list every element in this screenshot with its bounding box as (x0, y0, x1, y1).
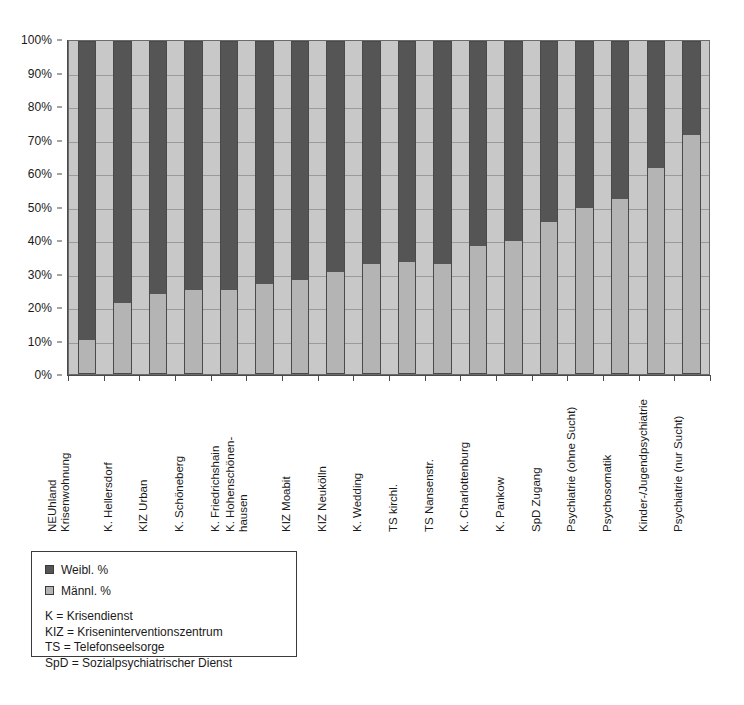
bar-segment-maennlich[interactable] (221, 290, 237, 373)
x-axis-tick-label: Psychiatrie (nur Sucht) (672, 416, 685, 532)
legend-swatch-icon (45, 586, 54, 595)
bar-segment-maennlich[interactable] (648, 168, 664, 373)
x-tick-mark (318, 376, 319, 381)
bar-segment-maennlich[interactable] (114, 303, 130, 373)
bar[interactable] (326, 41, 344, 374)
bar-segment-weiblich[interactable] (363, 42, 379, 264)
bar-segment-weiblich[interactable] (505, 42, 521, 241)
bar-segment-maennlich[interactable] (505, 241, 521, 373)
x-axis-tick-label: K. Pankow (494, 477, 507, 532)
bar-segment-maennlich[interactable] (470, 246, 486, 373)
bar-segment-maennlich[interactable] (256, 284, 272, 373)
bar-segment-weiblich[interactable] (470, 42, 486, 246)
bar-segment-maennlich[interactable] (292, 280, 308, 373)
stacked-bar-chart: 0%10%20%30%40%50%60%70%80%90%100% NEUhla… (0, 0, 744, 705)
legend-entries: Weibl. %Männl. % (45, 560, 296, 600)
bar[interactable] (469, 41, 487, 374)
bar[interactable] (575, 41, 593, 374)
x-label-slot: K. Charlottenburg (460, 382, 496, 532)
x-tick-mark (389, 376, 390, 381)
bar-segment-weiblich[interactable] (256, 42, 272, 284)
legend-item[interactable]: Weibl. % (45, 560, 296, 579)
bar-segment-maennlich[interactable] (683, 135, 699, 373)
bar[interactable] (78, 41, 96, 374)
y-tick-mark (57, 140, 62, 141)
bar-segment-weiblich[interactable] (150, 42, 166, 294)
x-label-slot: TS kirchl. (389, 382, 425, 532)
bar-segment-weiblich[interactable] (221, 42, 237, 290)
bar[interactable] (184, 41, 202, 374)
bar-slot (105, 41, 141, 374)
x-label-slot: KIZ Neukölln (318, 382, 354, 532)
x-label-slot: KIZ Urban (139, 382, 175, 532)
bar-segment-weiblich[interactable] (292, 42, 308, 280)
bar-segment-weiblich[interactable] (576, 42, 592, 208)
bar-segment-maennlich[interactable] (363, 264, 379, 373)
bar[interactable] (611, 41, 629, 374)
y-tick-label: 50% (28, 201, 52, 215)
bar-segment-maennlich[interactable] (434, 264, 450, 373)
bar[interactable] (362, 41, 380, 374)
bar-segment-weiblich[interactable] (114, 42, 130, 303)
bar-segment-maennlich[interactable] (541, 222, 557, 373)
x-axis-tick-label: KIZ Urban (137, 480, 150, 532)
x-axis-tick-label: K. Wedding (351, 473, 364, 532)
x-tick-mark (353, 376, 354, 381)
x-axis-tick-label-line: hausen (237, 437, 250, 532)
y-tick-mark (57, 174, 62, 175)
x-axis-tick-label: NEUhlandKrisenwohnung (46, 453, 72, 532)
bar[interactable] (255, 41, 273, 374)
x-axis-labels: NEUhlandKrisenwohnungK. HellersdorfKIZ U… (68, 382, 710, 532)
y-tick-label: 0% (34, 368, 52, 382)
bar-segment-weiblich[interactable] (79, 42, 95, 340)
bar-segment-weiblich[interactable] (399, 42, 415, 262)
bar-segment-weiblich[interactable] (541, 42, 557, 222)
x-axis-tick-label-line: KIZ Neukölln (316, 466, 329, 532)
bar[interactable] (113, 41, 131, 374)
y-tick-mark (57, 375, 62, 376)
bar-segment-maennlich[interactable] (79, 340, 95, 373)
bar[interactable] (220, 41, 238, 374)
legend-item[interactable]: Männl. % (45, 581, 296, 600)
x-label-slot: Psychiatrie (nur Sucht) (674, 382, 710, 532)
bar-segment-weiblich[interactable] (185, 42, 201, 290)
x-axis-tick-label-line: K. Hohenschönen- (224, 437, 237, 532)
bar[interactable] (433, 41, 451, 374)
bar[interactable] (682, 41, 700, 374)
bar-segment-weiblich[interactable] (434, 42, 450, 264)
bar[interactable] (398, 41, 416, 374)
bar-segment-maennlich[interactable] (399, 262, 415, 373)
bar[interactable] (540, 41, 558, 374)
x-axis-tick-label: K. Hellersdorf (102, 462, 115, 532)
x-label-slot: Kinder-/Jugendpsychiatrie (639, 382, 675, 532)
x-axis-tick-label-line: KIZ Urban (137, 480, 150, 532)
y-tick-mark (57, 40, 62, 41)
bar-segment-maennlich[interactable] (150, 294, 166, 373)
bar-segment-maennlich[interactable] (327, 272, 343, 373)
bar-segment-maennlich[interactable] (576, 208, 592, 374)
x-label-slot: SpD Zugang (532, 382, 568, 532)
bar-segment-weiblich[interactable] (648, 42, 664, 168)
x-tick-mark (532, 376, 533, 381)
bar-slot (389, 41, 425, 374)
x-label-slot: Psychosomatik (603, 382, 639, 532)
x-axis-tick-label: K. Hohenschönen-hausen (224, 437, 250, 532)
bar-segment-weiblich[interactable] (327, 42, 343, 272)
x-axis-tick-label: Psychiatrie (ohne Sucht) (565, 407, 578, 532)
bar-segment-maennlich[interactable] (612, 199, 628, 373)
x-axis-tick-label: SpD Zugang (530, 467, 543, 532)
y-tick-mark (57, 207, 62, 208)
plot-area (68, 40, 710, 375)
bar-segment-maennlich[interactable] (185, 290, 201, 373)
bar-segment-weiblich[interactable] (683, 42, 699, 135)
bar[interactable] (504, 41, 522, 374)
bar-slot (602, 41, 638, 374)
y-tick-mark (57, 73, 62, 74)
x-tick-mark (567, 376, 568, 381)
x-tick-mark (603, 376, 604, 381)
bar-segment-weiblich[interactable] (612, 42, 628, 199)
bar[interactable] (149, 41, 167, 374)
bar[interactable] (647, 41, 665, 374)
y-tick-label: 60% (28, 167, 52, 181)
bar[interactable] (291, 41, 309, 374)
